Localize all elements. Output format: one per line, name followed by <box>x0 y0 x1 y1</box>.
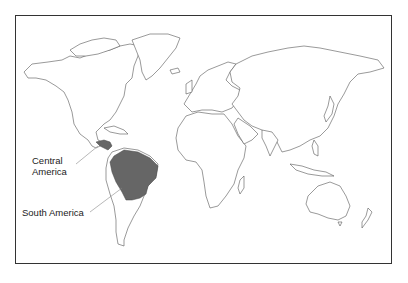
central-america-label: Central America <box>32 155 67 177</box>
madagascar <box>238 176 244 194</box>
indonesia <box>290 164 334 176</box>
south-america-label: South America <box>22 207 84 218</box>
australia <box>306 182 350 220</box>
central-america-leader-line <box>76 146 98 164</box>
world-map <box>0 0 408 283</box>
central-america-label-line1: Central <box>32 155 67 166</box>
new-zealand <box>362 208 372 228</box>
south-america-label-text: South America <box>22 207 84 218</box>
central-america-label-line2: America <box>32 166 67 177</box>
philippines <box>312 140 318 156</box>
tasmania <box>338 222 342 226</box>
caribbean <box>104 126 128 134</box>
iceland <box>170 68 180 74</box>
british-isles <box>186 80 192 94</box>
